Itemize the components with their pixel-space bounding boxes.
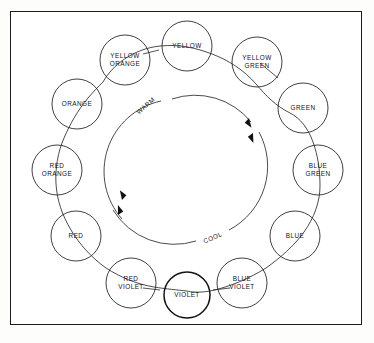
hue-label-line: ORANGE: [62, 100, 92, 107]
hue-label-line: GREEN: [291, 104, 316, 111]
hue-label-line: BLUE: [233, 274, 252, 281]
hue-label-line: ORANGE: [42, 170, 72, 177]
hue-label-yellow-green: YELLOWGREEN: [242, 53, 272, 68]
color-wheel-diagram: WARM COOL YELLOWYELLOWGREENGREENBLUEGREE…: [0, 0, 374, 343]
hue-label-blue: BLUE: [286, 232, 305, 239]
ring-arc-warm-side: [104, 101, 161, 219]
hue-label-line: BLUE: [286, 232, 305, 239]
arrow-head-icon-1: [244, 118, 254, 129]
ring-arc-right-upper: [172, 95, 251, 122]
hue-label-blue-violet: BLUEVIOLET: [229, 274, 254, 289]
hue-label-line: BLUE: [309, 161, 328, 168]
hue-connector-wave: [56, 45, 320, 292]
warm-cool-ring: [104, 95, 268, 244]
ring-arc-left-lower: [113, 210, 196, 244]
hue-label-line: RED: [50, 161, 65, 168]
hue-label-line: ORANGE: [110, 60, 140, 67]
hue-label-line: RED: [69, 232, 84, 239]
arrow-head-icon-4: [115, 204, 124, 215]
leader-red-violet: [143, 288, 160, 290]
leader-yellow-orange: [143, 50, 159, 54]
arrow-head-icon-3: [117, 189, 127, 200]
hue-label-line: YELLOW: [172, 42, 202, 49]
cool-label: COOL: [202, 230, 223, 244]
hue-label-line: YELLOW: [110, 51, 140, 58]
hue-circles-group: [32, 21, 343, 318]
hue-label-line: GREEN: [245, 62, 270, 69]
ring-arc-cool-to-right: [229, 132, 268, 230]
hue-label-line: GREEN: [306, 170, 331, 177]
hue-label-yellow-orange: YELLOWORANGE: [110, 51, 140, 66]
hue-label-line: VIOLET: [118, 283, 143, 290]
hue-label-red-orange: REDORANGE: [42, 161, 72, 176]
color-wheel-canvas: WARM COOL YELLOWYELLOWGREENGREENBLUEGREE…: [0, 0, 374, 343]
warm-label: WARM: [135, 96, 156, 116]
temperature-labels-group: WARM COOL: [135, 96, 223, 245]
hue-label-line: VIOLET: [174, 291, 199, 298]
hue-label-blue-green: BLUEGREEN: [306, 161, 331, 176]
ring-direction-arrows: [115, 118, 257, 215]
hue-label-red: RED: [69, 232, 84, 239]
hue-label-line: RED: [124, 274, 139, 281]
hue-label-green: GREEN: [291, 104, 316, 111]
hue-label-line: VIOLET: [229, 283, 254, 290]
wave-segment-right-lower: [266, 186, 320, 268]
wave-segment-left-upper: [56, 82, 103, 184]
hue-label-yellow: YELLOW: [172, 42, 202, 49]
arrow-head-icon-2: [247, 133, 256, 144]
hue-label-orange: ORANGE: [62, 100, 92, 107]
hue-label-violet: VIOLET: [174, 291, 199, 298]
hue-label-line: YELLOW: [242, 53, 272, 60]
